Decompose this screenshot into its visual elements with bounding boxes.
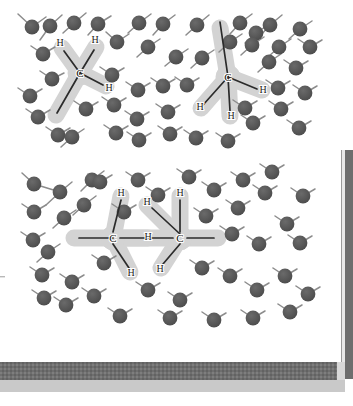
- water-molecule: [233, 16, 248, 31]
- water-molecule: [131, 83, 146, 98]
- water-molecule: [258, 186, 273, 201]
- water-molecule: [25, 20, 40, 35]
- water-molecule: [26, 233, 41, 248]
- water-molecule: [223, 269, 238, 284]
- water-molecule: [223, 35, 238, 50]
- water-molecule: [180, 78, 195, 93]
- water-molecule: [161, 105, 176, 120]
- water-molecule: [105, 68, 120, 83]
- water-molecule: [51, 128, 66, 143]
- hydrogen-label: H: [56, 37, 63, 48]
- water-molecule: [190, 18, 205, 33]
- water-molecule: [298, 86, 313, 101]
- footer-light-band: [0, 380, 345, 392]
- water-molecule: [303, 40, 318, 55]
- water-molecule: [131, 173, 146, 188]
- water-molecule: [65, 130, 80, 145]
- water-molecule: [27, 205, 42, 220]
- water-molecule: [37, 291, 52, 306]
- water-molecule: [23, 89, 38, 104]
- water-molecule: [31, 110, 46, 125]
- water-molecule: [207, 313, 222, 328]
- water-molecule: [263, 18, 278, 33]
- water-molecule: [141, 40, 156, 55]
- water-molecule: [59, 298, 74, 313]
- water-molecule: [271, 81, 286, 96]
- water-molecule: [132, 16, 147, 31]
- water-molecule: [296, 189, 311, 204]
- water-molecule: [110, 35, 125, 50]
- water-molecule: [93, 175, 108, 190]
- water-molecule: [65, 275, 80, 290]
- carbon-label: C: [224, 71, 231, 83]
- water-molecule: [77, 198, 92, 213]
- water-molecule: [195, 261, 210, 276]
- hydrogen-label: H: [91, 34, 98, 45]
- carbon-label: C: [176, 232, 183, 244]
- water-molecule: [163, 311, 178, 326]
- water-molecule: [293, 236, 308, 251]
- hydrogen-label: H: [127, 267, 134, 278]
- water-molecule: [156, 17, 171, 32]
- water-molecule: [265, 165, 280, 180]
- water-molecule: [113, 309, 128, 324]
- water-molecule: [283, 305, 298, 320]
- hydrogen-label: H: [196, 101, 203, 112]
- water-molecule: [45, 72, 60, 87]
- water-molecule: [207, 183, 222, 198]
- water-molecule: [79, 102, 94, 117]
- water-molecule: [195, 51, 210, 66]
- water-molecule: [151, 188, 166, 203]
- water-molecule: [107, 98, 122, 113]
- figure-page: C H H H C H H H: [0, 0, 353, 406]
- left-edge-tick: [0, 276, 5, 277]
- water-molecule: [236, 173, 251, 188]
- right-bar-outline: [341, 150, 342, 379]
- footer-dark-band: [0, 362, 337, 380]
- water-molecule: [292, 121, 307, 136]
- water-molecule: [109, 126, 124, 141]
- water-molecule: [130, 112, 145, 127]
- water-molecule: [67, 16, 82, 31]
- right-bar-edge: [342, 150, 345, 379]
- hydrophobic-solvation-figure: C H H H C H H H: [0, 0, 353, 406]
- water-molecule: [132, 133, 147, 148]
- hydrogen-label: H: [176, 187, 183, 198]
- water-molecule: [225, 227, 240, 242]
- carbon-label: C: [76, 67, 83, 79]
- water-molecule: [274, 102, 289, 117]
- water-molecule: [41, 245, 56, 260]
- water-molecule: [169, 50, 184, 65]
- water-molecule: [199, 209, 214, 224]
- water-molecule: [57, 211, 72, 226]
- water-molecule: [97, 256, 112, 271]
- water-molecule: [141, 283, 156, 298]
- footer-bands: [0, 362, 345, 392]
- water-molecule: [27, 177, 42, 192]
- water-molecule: [91, 17, 106, 32]
- hydrogen-label: H: [105, 82, 112, 93]
- water-molecule: [278, 269, 293, 284]
- hydrogen-label: H: [259, 84, 266, 95]
- right-bar-fill: [345, 150, 353, 379]
- water-molecule: [238, 101, 253, 116]
- water-molecule: [87, 289, 102, 304]
- water-molecule: [36, 47, 51, 62]
- water-molecule: [246, 311, 261, 326]
- water-molecule: [246, 116, 261, 131]
- water-molecule: [221, 134, 236, 149]
- water-molecule: [231, 201, 246, 216]
- water-molecule: [289, 61, 304, 76]
- water-molecule: [250, 283, 265, 298]
- right-vertical-bar: [341, 150, 353, 379]
- water-molecule: [262, 55, 277, 70]
- water-molecule: [182, 170, 197, 185]
- water-molecule: [245, 38, 260, 53]
- water-molecule: [163, 127, 178, 142]
- water-molecule: [53, 185, 68, 200]
- hydrogen-label: H: [156, 263, 163, 274]
- water-molecule: [272, 40, 287, 55]
- hydrogen-label: H: [144, 231, 151, 242]
- carbon-label: C: [109, 232, 116, 244]
- water-molecule: [156, 79, 171, 94]
